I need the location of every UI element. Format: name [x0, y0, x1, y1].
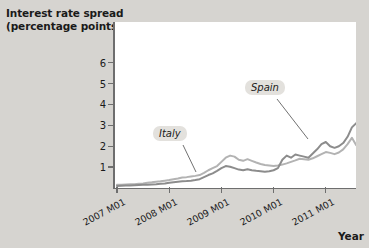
x-tick-2007-M01	[116, 187, 117, 193]
x-tick-label-2009-M01: 2009 M01	[185, 196, 231, 228]
y-tick-label-3: 3	[82, 120, 106, 131]
y-axis-line	[113, 22, 115, 189]
y-tick-1	[108, 166, 114, 167]
y-axis-title: Interest rate spread (percentage points)	[6, 7, 123, 33]
callout-leader-spain	[277, 99, 308, 139]
x-axis-line	[114, 188, 356, 190]
x-tick-label-2010-M01: 2010 M01	[238, 196, 284, 228]
y-tick-label-5: 5	[82, 78, 106, 89]
plot-area	[114, 22, 356, 188]
y-tick-4	[108, 104, 114, 105]
y-axis-title-line1: Interest rate spread	[6, 7, 123, 20]
y-tick-label-1: 1	[82, 162, 106, 173]
x-tick-2010-M01	[273, 187, 274, 193]
series-canvas	[114, 22, 356, 188]
y-tick-3	[108, 125, 114, 126]
chart-figure: Interest rate spread (percentage points)…	[0, 0, 369, 248]
y-tick-label-2: 2	[82, 141, 106, 152]
y-tick-5	[108, 83, 114, 84]
y-tick-label-6: 6	[82, 57, 106, 68]
x-tick-2009-M01	[221, 187, 222, 193]
callout-leader-italy	[183, 145, 196, 172]
x-axis-title: Year	[338, 230, 364, 242]
x-tick-2011-M01	[325, 187, 326, 193]
y-tick-label-4: 4	[82, 99, 106, 110]
x-tick-2008-M01	[169, 187, 170, 193]
x-tick-label-2008-M01: 2008 M01	[133, 196, 179, 228]
series-callout-italy: Italy	[153, 126, 187, 141]
y-tick-2	[108, 146, 114, 147]
x-tick-label-2007-M01: 2007 M01	[81, 196, 127, 228]
series-callout-spain: Spain	[245, 80, 285, 95]
x-tick-label-2011-M01: 2011 M01	[290, 196, 336, 228]
y-tick-6	[108, 62, 114, 63]
y-axis-title-line2: (percentage points)	[6, 20, 123, 33]
